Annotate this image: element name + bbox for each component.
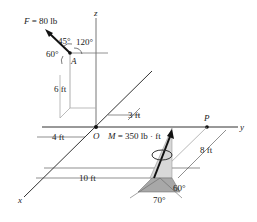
moment-label: M = 350 lb · ft [107, 131, 161, 141]
z-axis-label: z [93, 8, 98, 18]
angle-60-label: 60° [46, 49, 59, 59]
statics-diagram: F = 80 lb 45° 120° 60° A 6 ft z y x O 3 … [0, 0, 257, 222]
point-a [68, 51, 72, 55]
origin-point [94, 125, 98, 129]
dim-4ft-label: 4 ft [52, 132, 65, 142]
point-a-label: A [70, 56, 77, 66]
angle-70-label: 70° [153, 195, 166, 205]
angle-45-label: 45° [58, 36, 71, 46]
y-axis-label: y [239, 122, 244, 132]
height-6ft-label: 6 ft [54, 84, 67, 94]
angle-60b-label: 60° [173, 183, 186, 193]
point-p-label: P [203, 113, 210, 123]
dim-3ft-label: 3 ft [128, 110, 141, 120]
origin-label: O [93, 131, 100, 141]
dim-10ft-label: 10 ft [79, 173, 96, 183]
angle-120-label: 120° [76, 37, 94, 47]
force-label: F = 80 lb [23, 16, 58, 26]
dim-8ft-label: 8 ft [200, 145, 213, 155]
x-axis-label: x [17, 195, 22, 205]
